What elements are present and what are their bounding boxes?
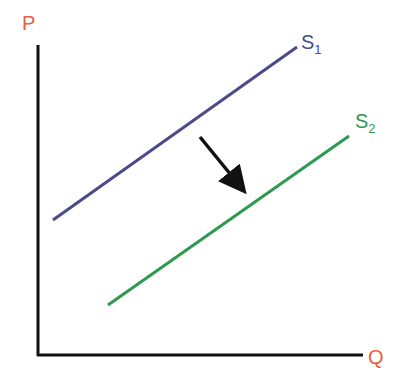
s1-label-subscript: 1 [314,42,321,57]
supply-curve-s2 [108,136,349,305]
supply-curve-s1 [53,47,297,220]
quantity-axis-label: Q [368,347,384,367]
s1-label: S1 [301,32,322,56]
s1-label-main: S [301,31,314,53]
s2-label: S2 [355,111,376,135]
s2-label-subscript: 2 [368,121,375,136]
diagram-canvas [0,0,403,385]
s2-label-main: S [355,110,368,132]
price-axis-label: P [22,13,35,33]
shift-arrow [200,137,240,186]
